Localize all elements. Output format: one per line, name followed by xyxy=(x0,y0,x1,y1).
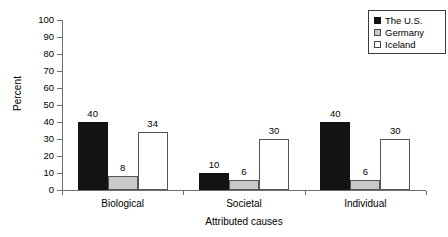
filled-black-swatch-icon xyxy=(374,17,381,24)
y-axis-tick-label: 30 xyxy=(14,134,54,144)
bar xyxy=(229,180,259,190)
y-axis-tick-label: 50 xyxy=(14,100,54,110)
open-white-swatch-icon xyxy=(374,41,381,48)
bar xyxy=(259,139,289,190)
bar-value-label: 40 xyxy=(314,109,356,119)
x-axis-line xyxy=(62,190,426,191)
x-axis-tick xyxy=(426,191,427,195)
bar-value-label: 30 xyxy=(374,126,416,136)
y-axis-tick-label: 80 xyxy=(14,49,54,59)
y-axis-tick-label: 70 xyxy=(14,66,54,76)
bar xyxy=(320,122,350,190)
legend-item-iceland: Iceland xyxy=(374,38,441,50)
legend-item-germany: Germany xyxy=(374,26,441,38)
bar-value-label: 8 xyxy=(102,163,144,173)
bar-value-label: 30 xyxy=(253,126,295,136)
x-axis-tick xyxy=(62,191,63,195)
bar-chart: Percent 1009080706050403020100 408341063… xyxy=(0,0,448,237)
bar xyxy=(350,180,380,190)
x-axis-tick xyxy=(305,191,306,195)
y-axis-tick-label: 0 xyxy=(14,185,54,195)
bar xyxy=(78,122,108,190)
legend-label-iceland: Iceland xyxy=(385,39,416,50)
y-axis-tick-label: 20 xyxy=(14,151,54,161)
x-axis-category-label: Individual xyxy=(305,198,426,209)
bar-value-label: 40 xyxy=(72,109,114,119)
y-axis-tick-label: 10 xyxy=(14,168,54,178)
bar-value-label: 34 xyxy=(132,119,174,129)
legend-label-the-us: The U.S. xyxy=(385,15,423,26)
bar xyxy=(108,176,138,190)
x-axis-category-label: Societal xyxy=(183,198,304,209)
bar xyxy=(138,132,168,190)
x-axis-tick xyxy=(183,191,184,195)
chart-legend: The U.S. Germany Iceland xyxy=(368,10,446,54)
x-axis-title: Attributed causes xyxy=(62,216,426,227)
bar-value-label: 6 xyxy=(223,167,265,177)
legend-label-germany: Germany xyxy=(385,27,424,38)
y-axis-tick-label: 100 xyxy=(14,15,54,25)
legend-item-the-us: The U.S. xyxy=(374,14,441,26)
filled-gray-swatch-icon xyxy=(374,29,381,36)
bar xyxy=(380,139,410,190)
y-axis-tick-label: 90 xyxy=(14,32,54,42)
x-axis-category-label: Biological xyxy=(62,198,183,209)
bar-value-label: 6 xyxy=(344,167,386,177)
y-axis-tick-label: 40 xyxy=(14,117,54,127)
y-axis-tick-label: 60 xyxy=(14,83,54,93)
